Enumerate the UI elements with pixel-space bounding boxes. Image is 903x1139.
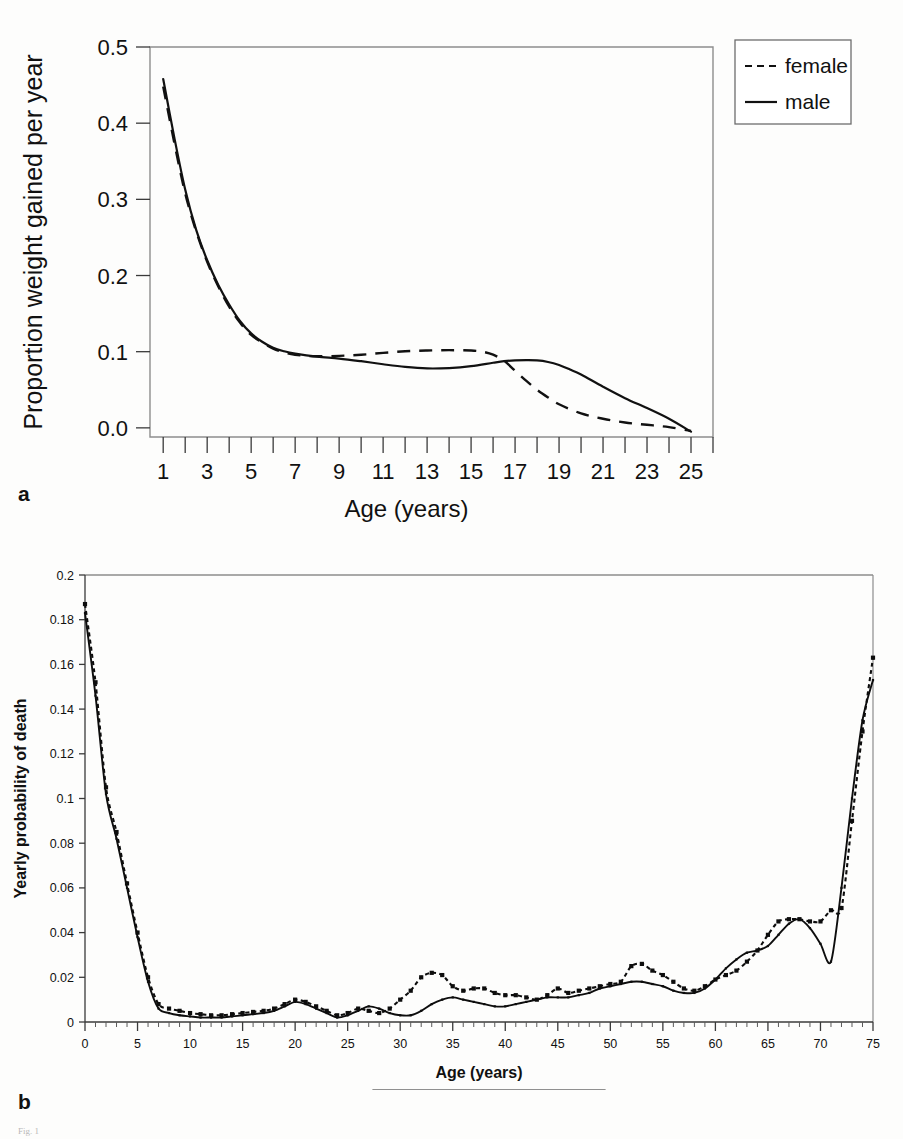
data-point-Females-b	[871, 656, 875, 660]
data-point-Males-b	[399, 1014, 401, 1016]
data-point-Females-b	[850, 819, 854, 823]
figure-root: 0.00.10.20.30.40.5135791113151719212325A…	[0, 0, 903, 1139]
data-point-Males-b	[462, 999, 464, 1001]
x-tick-label-a: 9	[333, 459, 345, 484]
data-point-Females-b	[230, 1012, 234, 1016]
y-tick-label-b: 0.14	[50, 703, 74, 717]
data-point-Females-b	[367, 1009, 371, 1013]
x-tick-label-a: 3	[201, 459, 213, 484]
x-tick-label-b: 65	[761, 1037, 775, 1051]
data-point-Females-b	[209, 1013, 213, 1017]
data-point-Females-b	[283, 1002, 287, 1006]
data-point-Males-b	[735, 958, 737, 960]
data-point-Females-b	[409, 989, 413, 993]
data-point-Females-b	[262, 1009, 266, 1013]
data-point-Females-b	[219, 1013, 223, 1017]
data-point-Males-b	[504, 1005, 506, 1007]
x-tick-label-a: 1	[157, 459, 169, 484]
data-point-Females-b	[93, 680, 97, 684]
data-point-Females-b	[104, 785, 108, 789]
data-point-Females-b	[335, 1013, 339, 1017]
data-point-Males-b	[378, 1007, 380, 1009]
data-point-Females-b	[125, 881, 129, 885]
data-point-Females-b	[293, 998, 297, 1002]
data-point-Females-b	[535, 998, 539, 1002]
panel-b-chart: 00.020.040.060.080.10.120.140.160.180.20…	[0, 530, 903, 1090]
x-tick-label-a: 5	[245, 459, 257, 484]
data-point-Females-b	[177, 1009, 181, 1013]
data-point-Males-b	[630, 981, 632, 983]
data-point-Females-b	[839, 906, 843, 910]
x-axis-label-b: Age (years)	[435, 1064, 522, 1081]
data-point-Females-b	[860, 729, 864, 733]
x-tick-label-b: 20	[288, 1037, 302, 1051]
data-point-Females-b	[503, 993, 507, 997]
data-point-Females-b	[829, 908, 833, 912]
data-point-Males-b	[588, 992, 590, 994]
data-point-Females-b	[251, 1010, 255, 1014]
data-point-Females-b	[776, 919, 780, 923]
data-point-Females-b	[524, 995, 528, 999]
data-point-Males-b	[557, 996, 559, 998]
y-tick-label-b: 0.16	[50, 658, 74, 672]
data-point-Females-b	[135, 931, 139, 935]
data-point-Females-b	[703, 984, 707, 988]
data-point-Females-b	[787, 917, 791, 921]
data-point-Males-b	[788, 923, 790, 925]
data-point-Males-b	[420, 1010, 422, 1012]
y-tick-label-a: 0.3	[97, 187, 128, 212]
x-tick-label-a: 15	[459, 459, 483, 484]
data-point-Males-b	[494, 1005, 496, 1007]
data-point-Females-b	[808, 919, 812, 923]
x-tick-label-b: 45	[551, 1037, 565, 1051]
data-point-Females-b	[167, 1006, 171, 1010]
y-tick-label-a: 0.2	[97, 264, 128, 289]
data-point-Males-b	[851, 797, 853, 799]
data-point-Females-b	[545, 993, 549, 997]
data-point-Males-b	[389, 1012, 391, 1014]
y-tick-label-b: 0.1	[57, 792, 74, 806]
data-point-Females-b	[514, 993, 518, 997]
data-point-Females-b	[713, 977, 717, 981]
data-point-Males-b	[641, 981, 643, 983]
x-tick-label-a: 21	[591, 459, 615, 484]
y-tick-label-b: 0.12	[50, 747, 74, 761]
x-tick-label-b: 30	[393, 1037, 407, 1051]
series-female-a	[163, 87, 691, 431]
data-point-Males-b	[809, 927, 811, 929]
data-point-Males-b	[840, 887, 842, 889]
data-point-Males-b	[515, 1003, 517, 1005]
data-point-Females-b	[556, 986, 560, 990]
series-male-a	[163, 79, 691, 432]
data-point-Males-b	[725, 967, 727, 969]
data-point-Females-b	[346, 1011, 350, 1015]
data-point-Females-b	[671, 980, 675, 984]
y-tick-label-a: 0.4	[97, 111, 128, 136]
data-point-Males-b	[777, 934, 779, 936]
plot-frame-a	[150, 47, 713, 437]
data-point-Males-b	[819, 943, 821, 945]
x-tick-label-a: 7	[289, 459, 301, 484]
data-point-Males-b	[368, 1005, 370, 1007]
legend-label-a: male	[785, 90, 831, 113]
data-point-Males-b	[441, 999, 443, 1001]
data-point-Females-b	[608, 982, 612, 986]
data-point-Males-b	[452, 996, 454, 998]
data-point-Males-b	[431, 1003, 433, 1005]
data-point-Females-b	[640, 962, 644, 966]
data-point-Females-b	[797, 917, 801, 921]
x-tick-label-a: 23	[635, 459, 659, 484]
data-point-Females-b	[114, 830, 118, 834]
y-tick-label-b: 0.08	[50, 837, 74, 851]
data-point-Females-b	[619, 980, 623, 984]
x-tick-label-b: 35	[446, 1037, 460, 1051]
x-tick-label-b: 15	[236, 1037, 250, 1051]
data-point-Males-b	[525, 1001, 527, 1003]
data-point-Males-b	[567, 996, 569, 998]
figure-caption: Fig. 1	[18, 1126, 888, 1136]
panel-b-svg: 00.020.040.060.080.10.120.140.160.180.20…	[0, 530, 903, 1090]
y-tick-label-b: 0.2	[57, 569, 74, 583]
data-point-Females-b	[598, 984, 602, 988]
data-point-Females-b	[430, 971, 434, 975]
data-point-Females-b	[734, 968, 738, 972]
